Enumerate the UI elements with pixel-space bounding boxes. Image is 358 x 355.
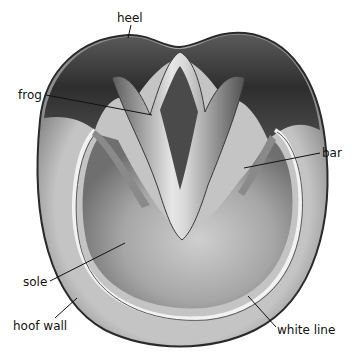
label-hoof-wall: hoof wall <box>13 320 67 332</box>
label-heel: heel <box>117 12 143 24</box>
leader-line-hoof-wall <box>55 298 77 318</box>
label-white-line: white line <box>277 324 335 336</box>
label-sole: sole <box>23 276 47 288</box>
hoof-diagram <box>0 0 358 355</box>
label-bar: bar <box>322 147 342 159</box>
label-frog: frog <box>18 89 42 101</box>
